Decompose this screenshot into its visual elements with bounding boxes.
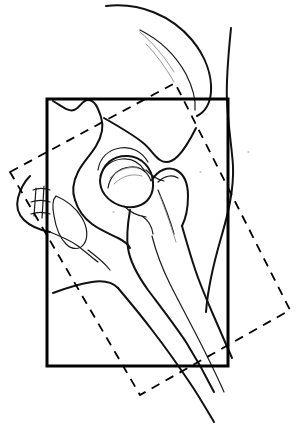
- anatomical-line-drawing: [0, 0, 301, 424]
- canvas-background: [0, 0, 301, 424]
- figure-root: [0, 0, 301, 424]
